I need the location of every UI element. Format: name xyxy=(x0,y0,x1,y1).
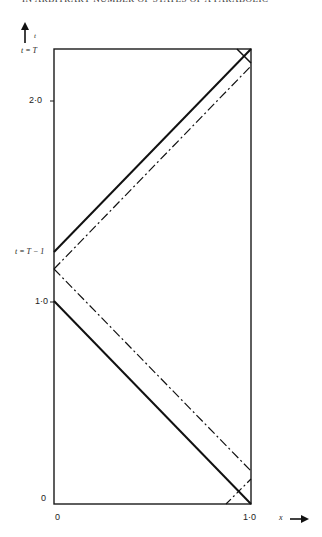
label-x-zero: 0 xyxy=(55,512,60,522)
solid-line-upper xyxy=(54,49,251,252)
t-axis-arrow-icon xyxy=(21,22,29,30)
label-x-1-0: 1·0 xyxy=(243,512,256,522)
label-1-0: 1·0 xyxy=(35,296,48,306)
diagram-plot xyxy=(0,0,322,537)
dashdot-line-lower xyxy=(54,269,251,471)
dashdot-line-upper xyxy=(54,66,251,269)
label-2-0: 2·0 xyxy=(29,95,42,105)
plot-frame xyxy=(54,49,251,504)
x-axis-arrow-icon xyxy=(301,515,309,523)
solid-line-lower xyxy=(54,301,251,504)
t-axis-label: t xyxy=(34,32,36,40)
label-t-equals-T: t = T xyxy=(21,46,37,55)
label-y-zero: 0 xyxy=(41,493,46,503)
x-axis-label: x xyxy=(279,513,283,522)
label-t-equals-T-minus-1: t = T − 1 xyxy=(15,247,44,256)
